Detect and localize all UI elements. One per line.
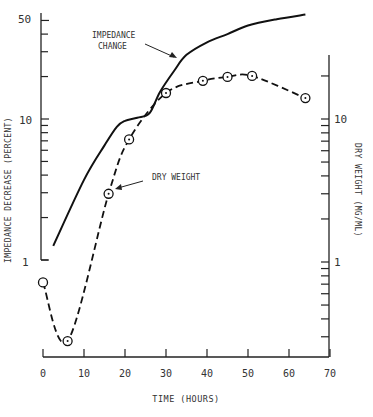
dry-weight-annotation: DRY WEIGHT xyxy=(152,173,200,182)
dry-weight-marker xyxy=(104,189,113,198)
right-axis-ticks xyxy=(321,76,329,337)
left-tick-label-1: 1 xyxy=(22,256,29,269)
left-axis-ticks xyxy=(41,20,49,260)
x-axis-title: TIME (HOURS) xyxy=(152,394,219,404)
left-tick-label-50: 50 xyxy=(18,13,31,26)
x-tick-label: 70 xyxy=(324,368,336,379)
x-tick-label: 60 xyxy=(283,368,295,379)
dry-weight-curve xyxy=(43,74,305,343)
left-y-axis xyxy=(41,13,48,260)
dry-weight-marker xyxy=(125,135,134,144)
impedance-change-curve xyxy=(53,15,305,246)
left-axis-title: IMPEDANCE DECREASE (PERCENT) xyxy=(4,117,13,263)
dry-weight-markers xyxy=(39,71,310,345)
right-tick-label-10: 10 xyxy=(334,113,347,126)
dry-weight-marker xyxy=(248,71,257,80)
dry-weight-marker xyxy=(301,94,310,103)
dry-weight-marker xyxy=(223,72,232,81)
right-tick-label-1: 1 xyxy=(334,256,341,269)
impedance-annotation-line2: CHANGE xyxy=(98,42,127,51)
impedance-annotation-arrow xyxy=(145,44,177,58)
x-tick-label: 20 xyxy=(119,368,131,379)
right-axis-title: DRY WEIGHT (MG/ML) xyxy=(353,143,362,237)
x-tick-label: 10 xyxy=(78,368,90,379)
x-axis-ticks xyxy=(43,349,330,357)
dry-weight-marker xyxy=(198,76,207,85)
left-tick-label-10: 10 xyxy=(19,114,32,127)
x-tick-label: 30 xyxy=(160,368,172,379)
dry-weight-annotation-arrow xyxy=(115,181,143,190)
x-tick-labels: 010203040506070 xyxy=(40,368,336,379)
impedance-annotation-line1: IMPEDANCE xyxy=(92,31,136,40)
x-tick-label: 50 xyxy=(242,368,254,379)
dry-weight-marker xyxy=(39,278,48,287)
x-tick-label: 40 xyxy=(201,368,213,379)
dry-weight-marker xyxy=(63,337,72,346)
dual-axis-chart: 50 10 1 10 1 010203040506070 TIME (HOURS… xyxy=(0,0,373,417)
x-tick-label: 0 xyxy=(40,368,46,379)
dry-weight-marker xyxy=(162,88,171,97)
